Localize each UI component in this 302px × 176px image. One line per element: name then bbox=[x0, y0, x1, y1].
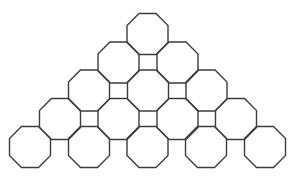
octagon-r5-c1 bbox=[10, 127, 51, 168]
diagram-canvas bbox=[0, 0, 302, 176]
octagon-r5-c2 bbox=[69, 127, 110, 168]
octagon-r5-c4 bbox=[186, 127, 227, 168]
octagon-r5-c3 bbox=[127, 127, 168, 168]
octagon-tessellation-diagram bbox=[0, 0, 302, 176]
octagon-r5-c5 bbox=[245, 127, 286, 168]
